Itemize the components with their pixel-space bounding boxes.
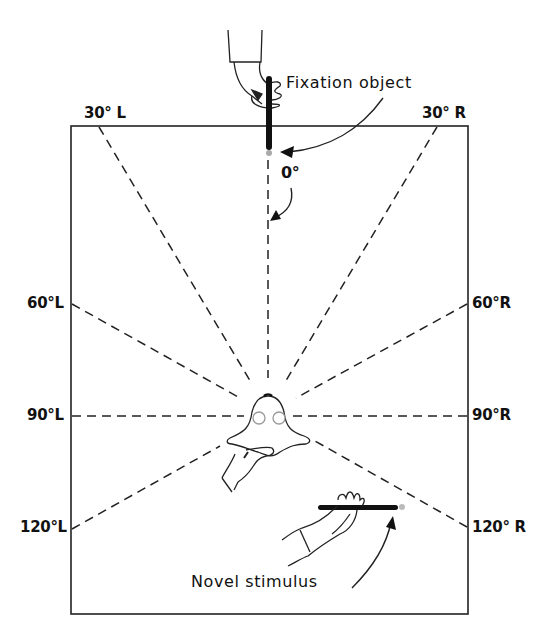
infant-head-icon <box>227 395 309 456</box>
fixation-rod <box>266 76 272 150</box>
line-60R <box>296 304 467 398</box>
novel-stimulus-point <box>399 504 405 510</box>
line-120L <box>72 446 220 529</box>
novel-stimulus-rod <box>318 505 398 510</box>
line-30L <box>99 127 252 384</box>
visual-field-diagram: Fixation object 0° 30° L 30° R 60°L 60°R… <box>0 0 543 633</box>
line-30R <box>284 127 437 384</box>
angle-label-60R: 60°R <box>472 294 511 312</box>
left-eye-icon <box>253 412 265 424</box>
zero-degree-label: 0° <box>281 163 300 182</box>
angle-label-60L: 60°L <box>27 294 64 312</box>
line-120R <box>315 441 467 527</box>
right-eye-icon <box>273 412 285 424</box>
diagram-canvas <box>0 0 543 633</box>
angle-label-120L: 120°L <box>20 518 67 536</box>
angle-label-90R: 90°R <box>472 406 511 424</box>
novel-stimulus-hand-icon <box>282 492 364 566</box>
fixation-object-label: Fixation object <box>286 73 412 92</box>
angle-lines <box>72 127 467 529</box>
testing-frame <box>71 126 468 614</box>
novel-stimulus-label: Novel stimulus <box>191 572 318 591</box>
fixation-object-hand-icon <box>228 30 281 108</box>
novel-stimulus-arrowhead-icon <box>386 516 396 530</box>
line-60L <box>72 304 240 398</box>
angle-label-120R: 120° R <box>472 518 526 536</box>
fixation-arrow <box>288 98 383 152</box>
novel-stimulus-arrow <box>352 522 391 588</box>
angle-label-90L: 90°L <box>27 406 64 424</box>
angle-label-30R: 30° R <box>422 104 466 122</box>
angle-label-30L: 30° L <box>84 104 126 122</box>
fixation-arrowhead-icon <box>280 146 294 158</box>
fixation-point <box>266 150 272 156</box>
